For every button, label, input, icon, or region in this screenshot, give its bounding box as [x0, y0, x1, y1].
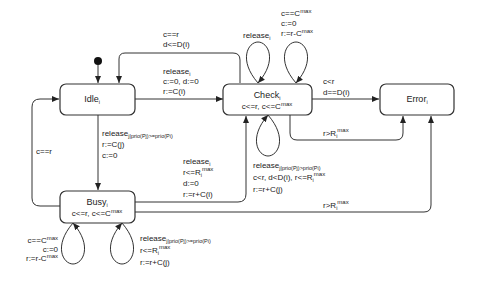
svg-text:c==Cmax: c==Cmax — [28, 235, 58, 245]
edge-check-self-overflow — [284, 42, 307, 83]
label-check-self-overflow: c==Cmax c:=0 r:=r-Cmax — [281, 8, 313, 38]
svg-text:r:=r+C(i): r:=r+C(i) — [183, 190, 213, 199]
svg-text:c:=0: c:=0 — [102, 151, 118, 160]
edge-busy-to-error — [135, 116, 431, 212]
label-busy-to-check: releasei r<=Rimax d:=0 r:=r+C(i) — [183, 157, 213, 199]
svg-text:d<=D(i): d<=D(i) — [163, 40, 190, 49]
svg-text:Errori: Errori — [406, 94, 427, 105]
svg-text:r:=r-Cmax: r:=r-Cmax — [281, 28, 313, 38]
label-check-to-error-deadline: c<r d==D(i) — [323, 77, 350, 97]
svg-text:releasei: releasei — [163, 67, 190, 77]
label-check-self-release: releasei — [243, 31, 270, 41]
label-busy-to-idle: c==r — [36, 147, 52, 156]
svg-text:r:=r+C(j): r:=r+C(j) — [253, 185, 283, 194]
svg-text:c<r, d<D(i), r<=Rimax: c<r, d<D(i), r<=Rimax — [253, 171, 325, 183]
state-error: Errori — [380, 84, 454, 115]
label-check-to-error-response: r>Rimax — [323, 127, 349, 139]
svg-text:r>Rimax: r>Rimax — [323, 199, 349, 211]
label-check-to-idle: c==r d<=D(i) — [163, 30, 190, 49]
state-idle: Idlei — [60, 84, 135, 115]
initial-state-dot — [94, 57, 102, 65]
svg-text:Idlei: Idlei — [84, 94, 100, 105]
state-diagram: Idlei Checki c<=r, c<=Cmax Errori Busyi … — [0, 0, 477, 282]
label-idle-to-check: releasei c:=0, d:=0 r:=C(i) — [163, 67, 199, 96]
edge-busy-self-release — [110, 223, 133, 264]
svg-text:r:=r+C(j): r:=r+C(j) — [140, 258, 170, 267]
svg-text:releasej|prio(Pj)>=prio(Pi): releasej|prio(Pj)>=prio(Pi) — [102, 129, 173, 139]
svg-text:c<r: c<r — [323, 77, 335, 86]
svg-text:r>Rimax: r>Rimax — [323, 127, 349, 139]
svg-text:c:=0: c:=0 — [281, 19, 297, 28]
svg-text:r<=Rimax: r<=Rimax — [140, 244, 170, 256]
label-idle-to-busy: releasej|prio(Pj)>=prio(Pi) r:=C(j) c:=0 — [102, 129, 173, 160]
state-check: Checki c<=r, c<=Cmax — [223, 84, 312, 115]
svg-text:r:=r-Cmax: r:=r-Cmax — [26, 253, 58, 263]
state-busy: Busyi c<=r, c<=Cmax — [60, 191, 135, 223]
svg-text:releasei: releasei — [243, 31, 270, 41]
label-busy-self-release: releasej|prio(Pj)>=prio(Pi) r<=Rimax r:=… — [140, 234, 211, 267]
svg-text:c==r: c==r — [36, 147, 52, 156]
svg-text:releasej|prio(Pj)>prio(Pi): releasej|prio(Pj)>prio(Pi) — [253, 161, 321, 171]
svg-text:Busyi: Busyi — [86, 197, 107, 208]
svg-text:r:=C(j): r:=C(j) — [102, 140, 125, 149]
label-check-self-preempt: releasej|prio(Pj)>prio(Pi) c<r, d<D(i), … — [253, 161, 325, 194]
label-busy-to-error: r>Rimax — [323, 199, 349, 211]
svg-text:d==D(i): d==D(i) — [323, 88, 350, 97]
svg-text:c==Cmax: c==Cmax — [281, 8, 311, 18]
edge-busy-self-overflow — [61, 223, 84, 264]
svg-text:c==r: c==r — [163, 30, 179, 39]
svg-text:releasej|prio(Pj)>=prio(Pi): releasej|prio(Pj)>=prio(Pi) — [140, 234, 211, 244]
svg-text:Checki: Checki — [254, 90, 281, 101]
label-busy-self-overflow: c==Cmax c:=0 r:=r-Cmax — [26, 235, 59, 263]
svg-text:r:=C(i): r:=C(i) — [163, 87, 186, 96]
svg-text:c:=0, d:=0: c:=0, d:=0 — [163, 77, 199, 86]
svg-text:r<=Rimax: r<=Rimax — [183, 166, 213, 178]
svg-text:d:=0: d:=0 — [183, 179, 199, 188]
edge-check-self-release — [246, 42, 269, 83]
edge-check-self-preempt — [256, 115, 279, 156]
